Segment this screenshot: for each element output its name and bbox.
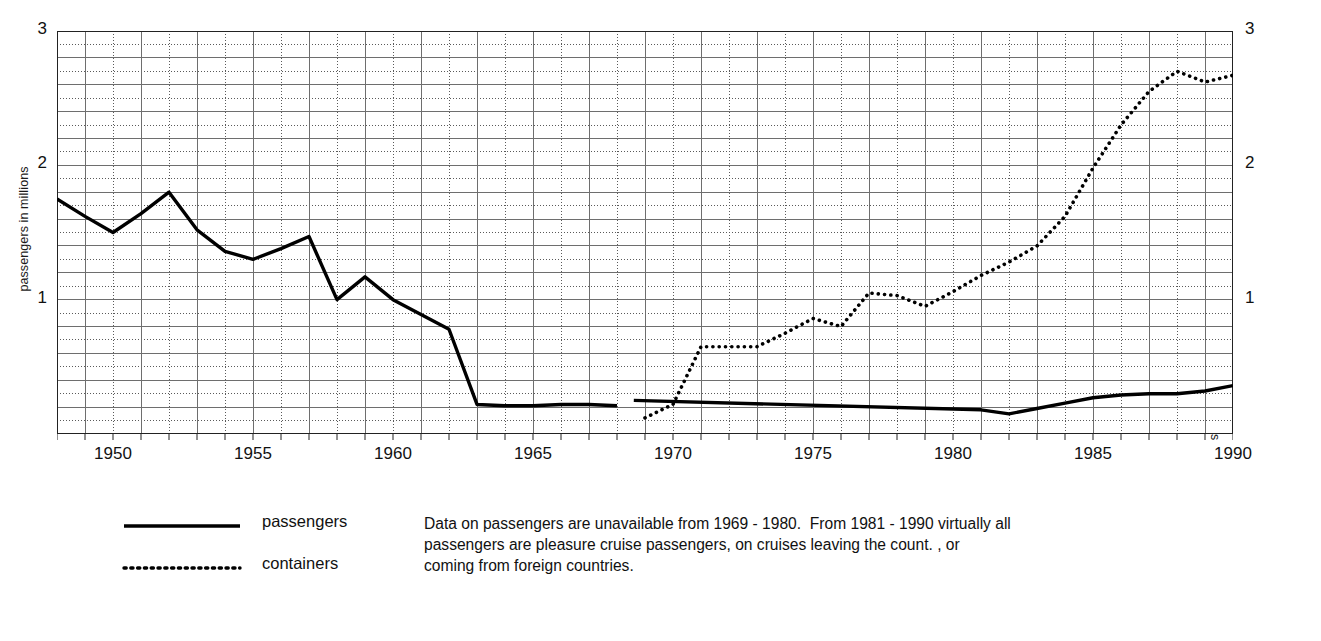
legend-swatch-passengers bbox=[122, 520, 242, 532]
legend-label-passengers: passengers bbox=[262, 512, 347, 531]
x-axis-tick-1975: 1975 bbox=[783, 444, 843, 464]
y-axis-left-tick-1: 1 bbox=[21, 288, 47, 308]
x-axis-tick-marks bbox=[57, 434, 1233, 443]
legend-swatch-containers bbox=[122, 562, 242, 574]
chart-caption: Data on passengers are unavailable from … bbox=[424, 513, 1124, 576]
y-axis-left-tick-3: 3 bbox=[21, 19, 47, 39]
x-axis-tick-1965: 1965 bbox=[503, 444, 563, 464]
x-axis-tick-1955: 1955 bbox=[223, 444, 283, 464]
chart-figure: passengers in millions containers in mil… bbox=[0, 0, 1321, 641]
plot-svg bbox=[57, 31, 1233, 434]
y-axis-right-tick-3: 3 bbox=[1245, 19, 1254, 39]
y-axis-right-tick-2: 2 bbox=[1245, 153, 1254, 173]
plot-area bbox=[57, 31, 1233, 434]
x-axis-tick-1980: 1980 bbox=[923, 444, 983, 464]
x-axis-tick-1985: 1985 bbox=[1063, 444, 1123, 464]
caption-line-1: Data on passengers are unavailable from … bbox=[424, 513, 1124, 534]
x-axis-tick-1960: 1960 bbox=[363, 444, 423, 464]
caption-line-3: coming from foreign countries. bbox=[424, 555, 1124, 576]
x-axis-tick-1970: 1970 bbox=[643, 444, 703, 464]
y-axis-right-tick-1: 1 bbox=[1245, 288, 1254, 308]
legend-label-containers: containers bbox=[262, 554, 338, 573]
y-axis-left-tick-2: 2 bbox=[21, 153, 47, 173]
x-axis-tick-1950: 1950 bbox=[83, 444, 143, 464]
x-axis-tick-1990: 1990 bbox=[1203, 444, 1263, 464]
gridlines-vertical-major bbox=[85, 31, 1205, 434]
caption-line-2: passengers are pleasure cruise passenger… bbox=[424, 534, 1124, 555]
